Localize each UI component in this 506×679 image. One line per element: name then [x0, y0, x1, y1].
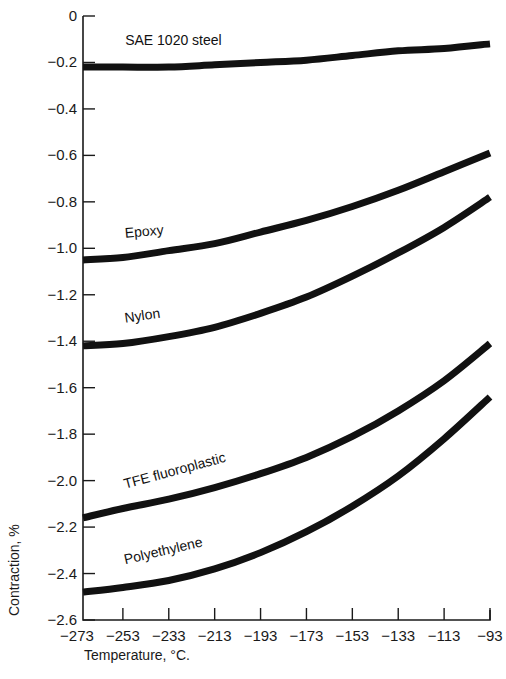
y-tick-label: −1.6 — [47, 379, 77, 396]
x-tick-label: −173 — [290, 627, 324, 644]
series-curve-3 — [83, 344, 490, 518]
y-tick-label: −2.2 — [47, 518, 77, 535]
y-tick-label: −1.4 — [47, 332, 77, 349]
x-tick-label: −93 — [477, 627, 502, 644]
x-tick-label: −113 — [428, 627, 461, 644]
x-tick-label: −193 — [244, 627, 278, 644]
y-tick-label: −0.6 — [47, 146, 77, 163]
x-tick-label: −273 — [60, 627, 94, 644]
y-tick-label: −0.8 — [47, 193, 77, 210]
x-tick-label: −253 — [106, 627, 140, 644]
y-tick-label: −0.2 — [47, 53, 77, 70]
series-curve-1 — [83, 153, 490, 260]
y-axis-ticks: 0−0.2−0.4−0.6−0.8−1.0−1.2−1.4−1.6−1.8−2.… — [47, 7, 95, 628]
y-tick-label: 0 — [69, 7, 77, 24]
x-axis-title: Temperature, °C. — [84, 647, 190, 663]
x-tick-label: −153 — [335, 627, 369, 644]
series-label: Nylon — [123, 305, 161, 326]
y-tick-label: −1.2 — [47, 286, 77, 303]
contraction-vs-temperature-chart: 0−0.2−0.4−0.6−0.8−1.0−1.2−1.4−1.6−1.8−2.… — [0, 0, 506, 679]
series-label: Polyethylene — [122, 533, 204, 567]
x-axis-ticks: −273−253−233−213−193−173−153−133−113−93 — [60, 608, 503, 644]
y-tick-label: −1.0 — [47, 239, 77, 256]
y-tick-label: −1.8 — [47, 425, 77, 442]
series-curve-2 — [83, 197, 490, 346]
y-axis-title: Contraction, % — [6, 524, 22, 616]
y-tick-label: −2.0 — [47, 472, 77, 489]
x-tick-label: −233 — [152, 627, 186, 644]
x-tick-label: −133 — [381, 627, 415, 644]
series-label: Epoxy — [124, 222, 164, 241]
y-tick-label: −2.4 — [47, 565, 77, 582]
series-label: SAE 1020 steel — [125, 32, 222, 48]
x-tick-label: −213 — [198, 627, 232, 644]
y-tick-label: −2.6 — [47, 611, 77, 628]
y-tick-label: −0.4 — [47, 100, 77, 117]
